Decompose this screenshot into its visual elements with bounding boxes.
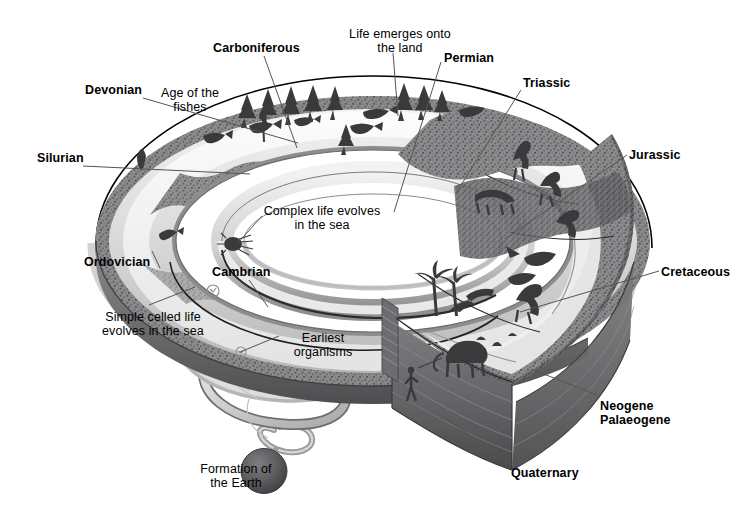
period-label-cretaceous-line-1: Cretaceous [661,266,730,280]
period-label-carboniferous-line-1: Carboniferous [213,42,300,56]
period-label-cambrian-line-1: Cambrian [212,266,270,280]
event-label-complex-life-evolves-in-the-sea-line-1: Complex life evolves [251,205,393,219]
period-label-neogene-palaeogene: NeogenePalaeogene [600,400,670,427]
period-label-ordovician-line-1: Ordovician [84,256,150,270]
event-label-simple-celled-life-evolves-in-the-sea-line-1: Simple celled life [88,311,218,325]
event-label-complex-life-evolves-in-the-sea-line-2: in the sea [251,219,393,233]
period-label-cambrian: Cambrian [212,266,270,280]
diagram-canvas: CarboniferousDevonianSilurianOrdovicianC… [0,0,746,523]
event-label-age-of-the-fishes-line-1: Age of the [148,87,232,101]
event-label-simple-celled-life-evolves-in-the-sea-line-2: evolves in the sea [88,325,218,339]
event-label-age-of-the-fishes-line-2: fishes [148,101,232,115]
period-label-jurassic: Jurassic [629,149,681,163]
period-label-ordovician: Ordovician [84,256,150,270]
event-label-earliest-organisms-line-1: Earliest [283,332,363,346]
period-label-neogene-palaeogene-line-2: Palaeogene [600,414,670,428]
event-label-earliest-organisms-line-2: organisms [283,346,363,360]
period-label-devonian-line-1: Devonian [85,84,142,98]
event-label-earliest-organisms: Earliestorganisms [283,332,363,359]
event-label-formation-of-the-earth-line-2: the Earth [190,477,282,491]
event-label-life-emerges-onto-the-land-line-1: Life emerges onto [332,28,468,42]
period-label-silurian-line-1: Silurian [37,152,84,166]
event-label-complex-life-evolves-in-the-sea: Complex life evolvesin the sea [251,205,393,232]
period-label-quaternary-line-1: Quaternary [511,467,579,481]
period-label-cretaceous: Cretaceous [661,266,730,280]
period-label-triassic-line-1: Triassic [523,77,570,91]
event-label-age-of-the-fishes: Age of thefishes [148,87,232,114]
period-label-neogene-palaeogene-line-1: Neogene [600,400,670,414]
period-label-devonian: Devonian [85,84,142,98]
event-label-formation-of-the-earth-line-1: Formation of [190,463,282,477]
event-label-life-emerges-onto-the-land: Life emerges ontothe land [332,28,468,55]
event-label-formation-of-the-earth: Formation ofthe Earth [190,463,282,490]
period-label-jurassic-line-1: Jurassic [629,149,681,163]
period-label-triassic: Triassic [523,77,570,91]
period-label-quaternary: Quaternary [511,467,579,481]
period-label-carboniferous: Carboniferous [213,42,300,56]
period-label-silurian: Silurian [37,152,84,166]
event-label-simple-celled-life-evolves-in-the-sea: Simple celled lifeevolves in the sea [88,311,218,338]
event-label-life-emerges-onto-the-land-line-2: the land [332,42,468,56]
